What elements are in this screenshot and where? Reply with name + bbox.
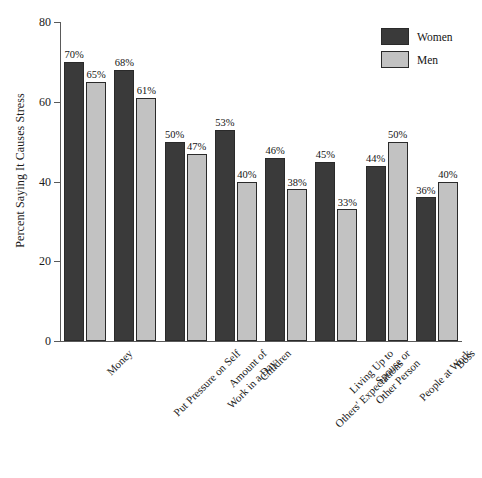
bar-value-label: 44% [366, 154, 385, 165]
bar-value-label: 70% [65, 50, 84, 61]
bar-value-label: 50% [165, 130, 184, 141]
bar-men: 40% [237, 182, 257, 342]
y-axis-tick-label: 20 [39, 254, 51, 269]
bar-women: 50% [165, 142, 185, 341]
legend-item: Men [381, 51, 452, 68]
bar-value-label: 40% [237, 170, 256, 181]
bar-value-label: 47% [187, 142, 206, 153]
chart-legend: WomenMen [381, 28, 452, 74]
bar-value-label: 36% [416, 186, 435, 197]
legend-swatch [381, 28, 409, 45]
bar-group: 53%40% [211, 22, 261, 341]
legend-label: Women [417, 31, 452, 43]
y-axis-title-text: Percent Saying It Causes Stress [13, 93, 28, 247]
bar-group: 45%33% [311, 22, 361, 341]
bar-women: 68% [114, 70, 134, 341]
bar-value-label: 68% [115, 58, 134, 69]
bar-men: 40% [438, 182, 458, 342]
bar-value-label: 65% [87, 70, 106, 81]
bar-group: 50%47% [161, 22, 211, 341]
bar-women: 45% [315, 162, 335, 341]
y-axis-tick-label: 40 [39, 174, 51, 189]
bar-group: 70%65% [60, 22, 110, 341]
bar-women: 36% [416, 197, 436, 341]
bar-men: 33% [337, 209, 357, 341]
bar-men: 61% [136, 98, 156, 341]
bar-group: 46%38% [261, 22, 311, 341]
y-axis-title: Percent Saying It Causes Stress [10, 0, 30, 341]
bar-value-label: 61% [137, 86, 156, 97]
bar-value-label: 33% [338, 198, 357, 209]
bar-value-label: 38% [288, 178, 307, 189]
y-axis-tick-label: 60 [39, 94, 51, 109]
x-axis-label: Spouse orOther Person [363, 347, 423, 407]
bar-chart: Percent Saying It Causes Stress 02040608… [0, 0, 482, 478]
x-axis-category-labels: MoneyPut Pressure on SelfAmount ofWork i… [60, 341, 462, 471]
bar-men: 38% [287, 189, 307, 341]
bar-women: 44% [366, 166, 386, 341]
bar-women: 53% [215, 130, 235, 341]
x-axis-label: Money [104, 347, 136, 379]
bar-men: 47% [187, 154, 207, 341]
bar-value-label: 40% [438, 170, 457, 181]
legend-label: Men [417, 54, 438, 66]
bar-value-label: 50% [388, 130, 407, 141]
x-axis-label-line: Money [104, 347, 136, 379]
bar-men: 65% [86, 82, 106, 341]
y-axis-tick-label: 0 [45, 334, 51, 349]
bar-women: 46% [265, 158, 285, 341]
bar-men: 50% [388, 142, 408, 341]
y-axis-tick-label: 80 [39, 15, 51, 30]
legend-swatch [381, 51, 409, 68]
bar-value-label: 53% [215, 118, 234, 129]
bar-value-label: 46% [266, 146, 285, 157]
bar-group: 68%61% [110, 22, 160, 341]
bar-value-label: 45% [316, 150, 335, 161]
legend-item: Women [381, 28, 452, 45]
bar-women: 70% [64, 62, 84, 341]
